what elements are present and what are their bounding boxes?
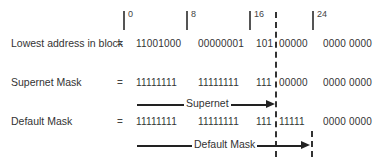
octet-3-prefix: 111	[256, 77, 272, 88]
row-label-default-mask: Default Mask	[11, 115, 72, 127]
octet-4: 0000 0000	[323, 116, 372, 127]
octet-2: 11111111	[198, 116, 239, 127]
bit-marker-24	[312, 11, 314, 30]
supernet-boundary-line	[275, 12, 277, 157]
bit-label-16: 16	[254, 9, 264, 19]
default-mask-arrow-label: Default Mask	[192, 138, 257, 150]
octet-3-prefix: 111	[256, 116, 272, 127]
octet-3-suffix: 00000	[279, 38, 308, 49]
octet-1: 11001000	[136, 38, 181, 49]
equals-sign: =	[117, 77, 123, 88]
row-label-lowest-address: Lowest address in block	[11, 37, 123, 49]
row-label-supernet-mask: Supernet Mask	[11, 76, 82, 88]
arrow-head-icon	[266, 100, 275, 108]
octet-4: 0000 0000	[323, 77, 372, 88]
octet-3-prefix: 101	[256, 38, 273, 49]
bit-marker-16	[249, 11, 251, 30]
octet-1: 11111111	[136, 116, 177, 127]
default-mask-boundary-line	[311, 131, 313, 157]
octet-3-suffix: 00000	[279, 77, 308, 88]
bit-marker-8	[186, 11, 188, 30]
octet-2: 11111111	[198, 77, 239, 88]
bit-label-0: 0	[128, 9, 133, 19]
equals-sign: =	[117, 116, 123, 127]
octet-3-suffix: 11111	[279, 116, 305, 127]
bit-marker-0	[123, 11, 125, 30]
bit-label-24: 24	[317, 9, 327, 19]
octet-1: 11111111	[136, 77, 177, 88]
supernet-arrow-label: Supernet	[184, 97, 231, 109]
arrow-head-icon	[301, 141, 310, 149]
equals-sign: =	[117, 38, 123, 49]
octet-2: 00000001	[198, 38, 244, 49]
bit-label-8: 8	[191, 9, 196, 19]
octet-4: 0000 0000	[323, 38, 372, 49]
